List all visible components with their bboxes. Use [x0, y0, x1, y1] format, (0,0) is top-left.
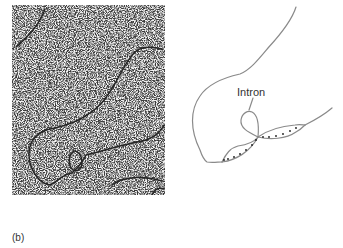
rna-dots: [223, 127, 297, 161]
intron-label: Intron: [237, 86, 265, 98]
hybrid-lower-left: [222, 137, 258, 162]
dna-strand: [193, 7, 297, 162]
hybrid-upper-left: [222, 137, 258, 162]
panel-label: (b): [12, 232, 24, 243]
intron-leader: [249, 98, 253, 110]
intron-loop: [241, 111, 258, 137]
dna-tail: [305, 108, 332, 125]
interpretive-diagram: [0, 0, 343, 248]
